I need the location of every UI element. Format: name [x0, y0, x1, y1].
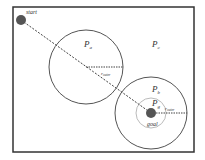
- path-planning-diagram: start goal Pa Pc Pb Pg router router: [0, 0, 205, 160]
- goal-point: [146, 108, 156, 118]
- start-point: [16, 15, 26, 25]
- start-label: start: [26, 9, 37, 15]
- goal-label: goal: [147, 121, 158, 127]
